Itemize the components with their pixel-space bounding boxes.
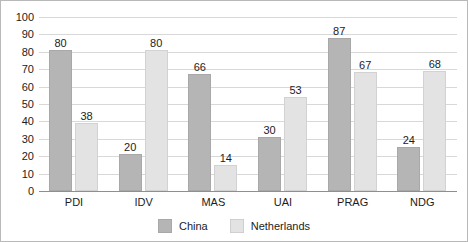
legend-item-netherlands: Netherlands bbox=[230, 219, 310, 233]
bar-netherlands-mas: 14 bbox=[214, 165, 237, 191]
y-axis-tick-label: 0 bbox=[28, 186, 34, 197]
x-axis-tick-label: MAS bbox=[201, 197, 225, 208]
bar-value-label: 20 bbox=[124, 142, 136, 153]
bar-netherlands-ndg: 68 bbox=[423, 71, 446, 191]
bar-china-idv: 20 bbox=[119, 154, 142, 191]
bar-group: 8038 bbox=[39, 17, 109, 191]
y-axis-tick-label: 10 bbox=[22, 168, 34, 179]
bar-value-label: 87 bbox=[333, 26, 345, 37]
axis-baseline bbox=[39, 191, 457, 192]
bar-china-prag: 87 bbox=[328, 38, 351, 191]
bar-value-label: 24 bbox=[403, 135, 415, 146]
legend-swatch-icon bbox=[158, 219, 172, 233]
bar-netherlands-idv: 80 bbox=[145, 50, 168, 191]
bar-group: 2080 bbox=[109, 17, 179, 191]
y-axis-tick-label: 30 bbox=[22, 133, 34, 144]
bar-group: 3053 bbox=[248, 17, 318, 191]
bar-group: 6614 bbox=[178, 17, 248, 191]
bar-series-container: 803820806614305387672468 bbox=[39, 17, 457, 191]
bar-value-label: 67 bbox=[359, 60, 371, 71]
x-axis-tick-label: UAI bbox=[274, 197, 292, 208]
bar-netherlands-prag: 67 bbox=[354, 72, 377, 191]
bar-value-label: 68 bbox=[429, 59, 441, 70]
y-axis-tick-label: 90 bbox=[22, 29, 34, 40]
bar-china-uai: 30 bbox=[258, 137, 281, 191]
bar-china-pdi: 80 bbox=[49, 50, 72, 191]
legend-swatch-icon bbox=[230, 219, 244, 233]
bar-china-mas: 66 bbox=[188, 74, 211, 191]
bar-value-label: 30 bbox=[263, 125, 275, 136]
y-axis-tick-label: 70 bbox=[22, 64, 34, 75]
y-axis-tick-label: 60 bbox=[22, 81, 34, 92]
x-axis-tick-label: IDV bbox=[134, 197, 152, 208]
x-axis-tick-label: PRAG bbox=[337, 197, 368, 208]
legend-label: China bbox=[179, 221, 208, 232]
bar-value-label: 80 bbox=[54, 38, 66, 49]
bar-chart-figure: 0102030405060708090100 80382080661430538… bbox=[0, 0, 468, 242]
y-axis-tick-label: 100 bbox=[16, 12, 34, 23]
bar-group: 2468 bbox=[387, 17, 457, 191]
x-axis-tick-label: NDG bbox=[410, 197, 434, 208]
x-axis-tick-label: PDI bbox=[65, 197, 83, 208]
bar-value-label: 38 bbox=[80, 111, 92, 122]
legend-label: Netherlands bbox=[251, 221, 310, 232]
y-axis-tick-label: 40 bbox=[22, 116, 34, 127]
bar-netherlands-uai: 53 bbox=[284, 97, 307, 191]
legend-item-china: China bbox=[158, 219, 208, 233]
plot-area: 0102030405060708090100 80382080661430538… bbox=[39, 17, 457, 191]
y-axis-tick-label: 20 bbox=[22, 151, 34, 162]
bar-value-label: 66 bbox=[194, 62, 206, 73]
bar-group: 8767 bbox=[318, 17, 388, 191]
bar-netherlands-pdi: 38 bbox=[75, 123, 98, 191]
chart-legend: ChinaNetherlands bbox=[1, 219, 467, 233]
bar-value-label: 14 bbox=[220, 153, 232, 164]
y-axis-tick-label: 50 bbox=[22, 99, 34, 110]
bar-value-label: 80 bbox=[150, 38, 162, 49]
bar-value-label: 53 bbox=[289, 85, 301, 96]
y-axis-tick-label: 80 bbox=[22, 46, 34, 57]
bar-china-ndg: 24 bbox=[397, 147, 420, 191]
